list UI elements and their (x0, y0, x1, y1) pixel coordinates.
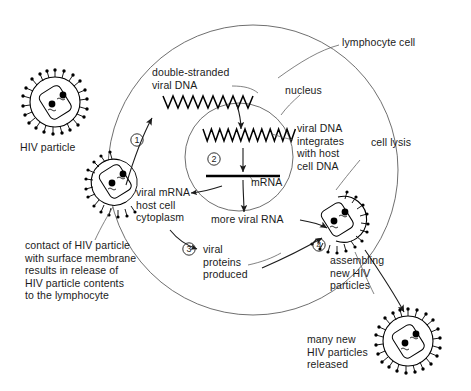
label-contact-of-hiv-particle: contact of HIV particle with surface mem… (25, 239, 136, 302)
fusing-hiv-particle (84, 150, 137, 218)
leader-nucleus (281, 95, 300, 115)
integrated-viral-dna-zigzag (203, 129, 295, 141)
label-viral-dna-integrates: viral DNA integrates with host cell DNA (297, 122, 344, 172)
step-number-3: 3 (183, 243, 195, 255)
label-more-viral-rna: more viral RNA (211, 213, 284, 226)
arrow-more-viral-rna-to-assembly (300, 220, 327, 228)
leader-contact-of-hiv (95, 207, 113, 240)
label-cell-lysis: cell lysis (371, 136, 411, 149)
leader-viral-proteins-produced (248, 253, 281, 265)
label-viral-mrna-cytoplasm: viral mRNA host cell cytoplasm (136, 186, 190, 224)
leader-lymphocyte-cell (278, 45, 339, 78)
svg-text:1: 1 (134, 135, 139, 145)
hiv-replication-diagram: 1 2 3 4 HIV particle double-stranded vir… (0, 0, 471, 391)
label-nucleus: nucleus (285, 84, 322, 97)
label-assembling-new-hiv-particles: assembling new HIV particles (330, 254, 384, 292)
released-hiv-particle (374, 307, 441, 374)
label-viral-proteins-produced: viral proteins produced (203, 243, 248, 281)
arrow-dna-into-nucleus (237, 105, 241, 129)
diagram-canvas: 1 2 3 4 (0, 0, 471, 391)
step-number-2: 2 (208, 153, 220, 165)
label-many-new-hiv-particles-released: many new HIV particles released (307, 333, 368, 371)
free-hiv-particle (21, 68, 88, 135)
label-double-stranded-viral-dna: double-stranded viral DNA (152, 66, 229, 91)
svg-text:2: 2 (211, 154, 216, 164)
svg-text:4: 4 (316, 240, 321, 250)
arrow-mrna-to-more-viral-rna (243, 180, 244, 212)
double-stranded-viral-dna-zigzag (163, 96, 253, 108)
leader-double-stranded-viral-dna (232, 86, 258, 93)
label-mrna: mRNA (251, 176, 282, 189)
nucleus-boundary (185, 103, 293, 211)
svg-text:3: 3 (186, 244, 191, 254)
step-number-4: 4 (313, 239, 325, 251)
label-lymphocyte-cell: lymphocyte cell (342, 36, 415, 49)
label-hiv-particle: HIV particle (20, 141, 75, 154)
